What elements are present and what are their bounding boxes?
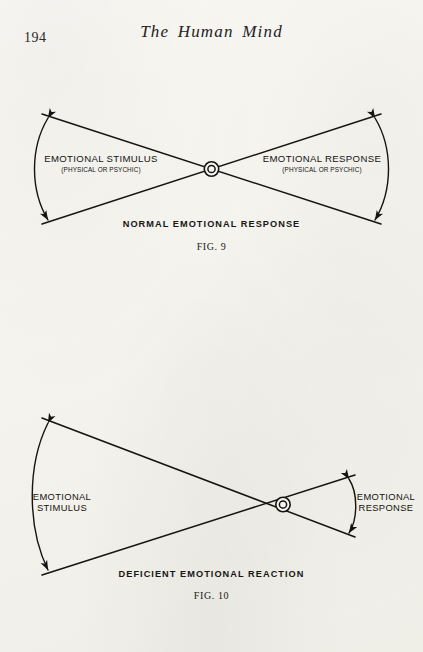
figure-9-left-label-line2: (PHYSICAL OR PSYCHIC) [44,166,158,173]
book-title: The Human Mind [0,22,423,42]
figure-10-right-label: EMOTIONAL RESPONSE [357,492,415,513]
running-head: 194 The Human Mind [0,0,423,52]
figure-9-left-label: EMOTIONAL STIMULUS (PHYSICAL OR PSYCHIC) [44,154,158,173]
figure-9: EMOTIONAL STIMULUS (PHYSICAL OR PSYCHIC)… [0,104,423,254]
figure-9-drawing [0,104,423,254]
figure-10-caption: DEFICIENT EMOTIONAL REACTION [0,569,423,579]
book-page: 194 The Human Mind [0,0,423,652]
figure-9-left-label-line1: EMOTIONAL STIMULUS [44,154,158,165]
figure-9-right-label: EMOTIONAL RESPONSE (PHYSICAL OR PSYCHIC) [263,154,381,173]
figure-9-caption: NORMAL EMOTIONAL RESPONSE [0,219,423,229]
figure-10-right-label-line1: EMOTIONAL [357,492,415,503]
figure-10-left-label: EMOTIONAL STIMULUS [33,492,91,513]
figure-10-left-label-line2: STIMULUS [33,503,91,514]
figure-9-right-label-line1: EMOTIONAL RESPONSE [263,154,381,165]
figure-10-right-label-line2: RESPONSE [357,503,415,514]
figure-9-right-label-line2: (PHYSICAL OR PSYCHIC) [263,166,381,173]
figure-10-left-label-line1: EMOTIONAL [33,492,91,503]
figure-9-number: FIG. 9 [0,241,423,252]
figure-10-number: FIG. 10 [0,590,423,601]
figure-10: EMOTIONAL STIMULUS EMOTIONAL RESPONSE DE… [0,407,423,597]
